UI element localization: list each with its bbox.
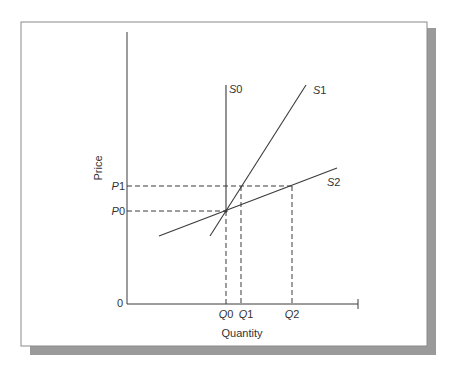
- tick-label-q0: Q0: [219, 308, 234, 320]
- tick-label-q2: Q2: [285, 308, 300, 320]
- x-axis-title: Quantity: [222, 327, 263, 339]
- label-s1: S1: [313, 84, 326, 96]
- equilibrium-point: [224, 209, 227, 212]
- tick-label-p0: P0: [112, 205, 125, 217]
- origin-label: 0: [117, 297, 123, 309]
- label-s0: S0: [229, 83, 242, 95]
- label-s2: S2: [327, 176, 340, 188]
- frame: [21, 22, 427, 346]
- y-axis-title: Price: [92, 155, 104, 180]
- tick-label-p1: P1: [112, 180, 125, 192]
- tick-label-q1: Q1: [239, 308, 254, 320]
- supply-elasticity-diagram: S0 S1 S2 P1 P0 0 Q0 Q1 Q2 Quantity Price: [0, 0, 450, 366]
